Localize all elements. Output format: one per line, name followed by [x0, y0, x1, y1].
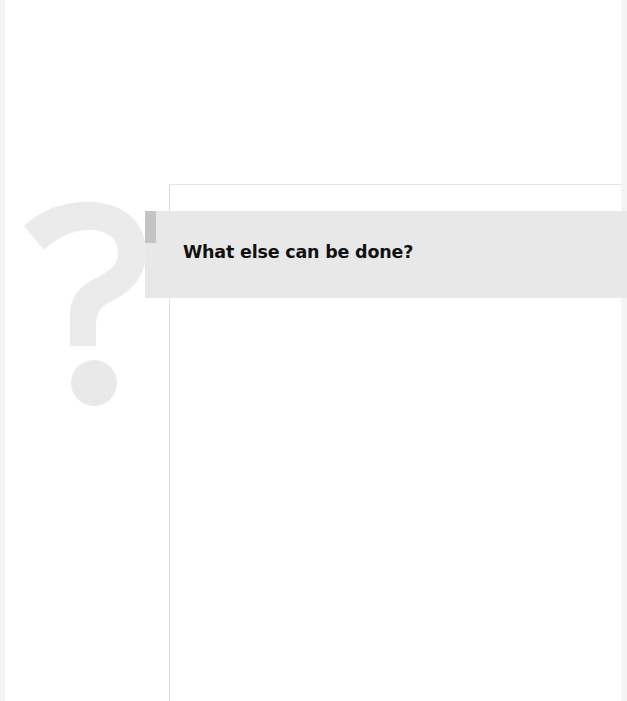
section-heading: What else can be done?	[183, 242, 413, 262]
page-edge-shadow	[621, 0, 627, 701]
page-edge-shadow	[0, 0, 5, 701]
question-mark-icon	[22, 198, 152, 408]
heading-marker	[145, 211, 156, 243]
